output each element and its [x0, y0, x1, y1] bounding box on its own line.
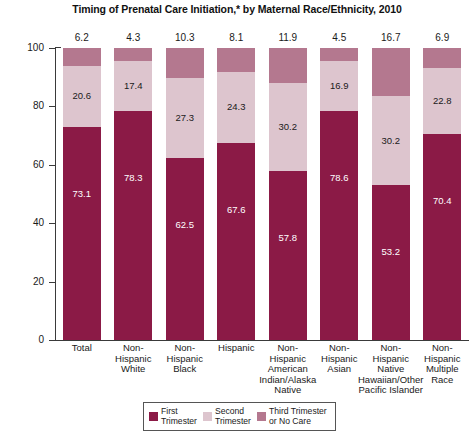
bar-top-value: 8.1 — [217, 32, 255, 43]
legend-swatch — [203, 412, 212, 421]
bar-stack[interactable]: 30.253.216.7 — [372, 48, 410, 340]
y-axis-tick-label: 100 — [18, 42, 44, 53]
y-axis-tick — [49, 223, 55, 224]
bar-segment-value: 62.5 — [166, 220, 204, 230]
bar-segment-value: 73.1 — [63, 189, 101, 199]
bar-segment-value: 30.2 — [372, 136, 410, 146]
bar-segment-value: 30.2 — [269, 122, 307, 132]
bar-segment-value: 22.8 — [423, 96, 461, 106]
bar-segment[interactable]: 53.2 — [372, 185, 410, 340]
bar-segment[interactable]: 24.3 — [217, 72, 255, 143]
legend-label: Second Trimester — [215, 407, 251, 426]
bar-segment[interactable] — [269, 48, 307, 83]
y-axis-tick-label: 80 — [18, 100, 44, 111]
bar-segment[interactable]: 67.6 — [217, 143, 255, 340]
bar-segment-value: 17.4 — [114, 81, 152, 91]
y-axis-tick — [49, 282, 55, 283]
bar-segment[interactable]: 73.1 — [63, 127, 101, 340]
bar-segment[interactable]: 30.2 — [269, 83, 307, 171]
bar-top-value: 11.9 — [269, 32, 307, 43]
bar-segment[interactable]: 20.6 — [63, 66, 101, 126]
bar-segment-value: 16.9 — [320, 81, 358, 91]
x-axis-labels: TotalNon- Hispanic WhiteNon- Hispanic Bl… — [56, 343, 468, 403]
bar-segment[interactable]: 27.3 — [166, 78, 204, 158]
legend-item[interactable]: Second Trimester — [203, 407, 251, 426]
bar-top-value: 16.7 — [372, 32, 410, 43]
legend-item[interactable]: First Trimester — [149, 407, 197, 426]
bar-segment-value: 67.6 — [217, 205, 255, 215]
bar-top-value: 4.3 — [114, 32, 152, 43]
chart-legend: First TrimesterSecond TrimesterThird Tri… — [143, 402, 336, 431]
bar-segment[interactable]: 30.2 — [372, 96, 410, 184]
bar-segment[interactable]: 78.3 — [114, 111, 152, 340]
chart-title: Timing of Prenatal Care Initiation,* by … — [0, 3, 474, 15]
plot-area: Percent of Mothers 20.673.16.217.478.34.… — [56, 48, 468, 340]
bar-top-value: 10.3 — [166, 32, 204, 43]
x-axis-line — [55, 340, 469, 341]
y-axis-tick — [49, 340, 55, 341]
bar-segment-value: 78.6 — [320, 173, 358, 183]
bar-segment[interactable] — [320, 48, 358, 61]
bar-segment-value: 20.6 — [63, 91, 101, 101]
bar-stack[interactable]: 24.367.68.1 — [217, 48, 255, 340]
bar-segment[interactable]: 62.5 — [166, 158, 204, 341]
legend-item[interactable]: Third Trimester or No Care — [257, 407, 327, 426]
bar-stack[interactable]: 16.978.64.5 — [320, 48, 358, 340]
bar-segment[interactable]: 16.9 — [320, 61, 358, 110]
bar-segment[interactable] — [372, 48, 410, 97]
bar-segment[interactable] — [217, 48, 255, 72]
bar-segment-value: 53.2 — [372, 247, 410, 257]
y-axis-tick-label: 0 — [18, 334, 44, 345]
bar-segment[interactable]: 78.6 — [320, 111, 358, 341]
bar-stack[interactable]: 22.870.46.9 — [423, 48, 461, 340]
legend-swatch — [257, 412, 266, 421]
legend-swatch — [149, 412, 158, 421]
chart-container: Timing of Prenatal Care Initiation,* by … — [0, 0, 474, 437]
y-axis-tick — [49, 165, 55, 166]
bar-top-value: 6.9 — [423, 32, 461, 43]
x-axis-label: Non- Hispanic Multiple Race — [408, 343, 474, 385]
y-axis-tick-label: 60 — [18, 159, 44, 170]
bar-segment[interactable]: 17.4 — [114, 61, 152, 112]
y-axis-tick — [49, 48, 55, 49]
bar-segment[interactable] — [166, 48, 204, 78]
bar-top-value: 4.5 — [320, 32, 358, 43]
bar-segment[interactable] — [423, 48, 461, 68]
bar-segment[interactable]: 57.8 — [269, 171, 307, 340]
bar-segment-value: 27.3 — [166, 113, 204, 123]
bar-segment-value: 70.4 — [423, 196, 461, 206]
bar-stack[interactable]: 17.478.34.3 — [114, 48, 152, 340]
y-axis-tick-label: 40 — [18, 217, 44, 228]
bar-top-value: 6.2 — [63, 32, 101, 43]
bar-stack[interactable]: 30.257.811.9 — [269, 48, 307, 340]
bar-segment-value: 57.8 — [269, 233, 307, 243]
bar-segment[interactable]: 70.4 — [423, 134, 461, 340]
legend-label: First Trimester — [161, 407, 197, 426]
bar-segment[interactable] — [114, 48, 152, 61]
y-axis-tick-label: 20 — [18, 276, 44, 287]
bar-segment[interactable] — [63, 48, 101, 66]
bar-segment-value: 78.3 — [114, 173, 152, 183]
bar-stack[interactable]: 27.362.510.3 — [166, 48, 204, 340]
legend-label: Third Trimester or No Care — [269, 407, 327, 426]
bar-stack[interactable]: 20.673.16.2 — [63, 48, 101, 340]
bar-segment-value: 24.3 — [217, 102, 255, 112]
y-axis-tick — [49, 106, 55, 107]
bar-segment[interactable]: 22.8 — [423, 68, 461, 135]
